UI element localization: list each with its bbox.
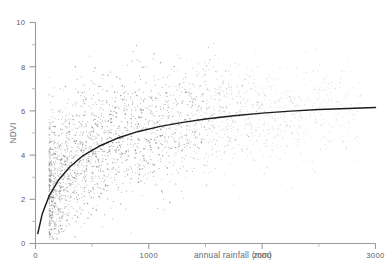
scatter-point bbox=[208, 107, 209, 108]
scatter-point bbox=[67, 191, 69, 193]
scatter-point bbox=[181, 91, 182, 92]
scatter-point bbox=[150, 112, 151, 113]
scatter-point bbox=[64, 162, 65, 163]
scatter-point bbox=[242, 151, 243, 152]
scatter-point bbox=[62, 129, 63, 130]
scatter-point bbox=[320, 124, 321, 125]
scatter-point bbox=[296, 112, 297, 113]
scatter-point bbox=[135, 118, 136, 119]
scatter-point bbox=[207, 100, 208, 101]
scatter-point bbox=[53, 220, 55, 222]
scatter-point bbox=[86, 168, 88, 170]
scatter-point bbox=[194, 135, 195, 136]
scatter-point bbox=[160, 128, 162, 130]
scatter-point bbox=[57, 219, 58, 220]
scatter-point bbox=[116, 184, 117, 185]
scatter-point bbox=[168, 100, 169, 101]
scatter-point bbox=[280, 97, 282, 99]
scatter-point bbox=[100, 169, 101, 170]
scatter-point bbox=[98, 170, 99, 171]
scatter-point bbox=[332, 105, 333, 106]
scatter-point bbox=[152, 129, 153, 130]
scatter-point bbox=[204, 74, 206, 76]
scatter-point bbox=[186, 91, 187, 92]
scatter-point bbox=[117, 147, 118, 148]
scatter-point bbox=[316, 119, 317, 120]
scatter-point bbox=[259, 108, 260, 109]
scatter-point bbox=[312, 161, 314, 163]
scatter-point bbox=[334, 118, 335, 119]
scatter-point bbox=[84, 191, 85, 192]
scatter-point bbox=[293, 103, 295, 105]
scatter-point bbox=[226, 107, 227, 108]
scatter-point bbox=[185, 177, 186, 178]
scatter-point bbox=[284, 132, 285, 133]
scatter-point bbox=[114, 107, 115, 108]
scatter-point bbox=[131, 109, 132, 110]
scatter-point bbox=[61, 195, 62, 196]
scatter-point bbox=[245, 126, 246, 127]
scatter-point bbox=[71, 155, 72, 156]
scatter-point bbox=[331, 126, 332, 127]
scatter-point bbox=[141, 110, 142, 111]
scatter-point bbox=[256, 67, 257, 68]
scatter-point bbox=[165, 84, 166, 85]
scatter-point bbox=[218, 102, 219, 103]
scatter-point bbox=[127, 121, 129, 123]
scatter-point bbox=[324, 137, 325, 138]
scatter-point bbox=[83, 115, 84, 116]
scatter-points-layer bbox=[48, 41, 361, 240]
scatter-point bbox=[141, 99, 142, 100]
scatter-point bbox=[51, 205, 53, 207]
scatter-point bbox=[101, 149, 103, 151]
scatter-point bbox=[153, 53, 155, 55]
scatter-point bbox=[169, 162, 170, 163]
scatter-point bbox=[98, 126, 99, 127]
scatter-point bbox=[231, 87, 232, 88]
scatter-point bbox=[100, 86, 101, 87]
scatter-point bbox=[55, 118, 56, 119]
scatter-point bbox=[63, 164, 64, 165]
scatter-point bbox=[161, 190, 163, 192]
scatter-point bbox=[153, 132, 154, 133]
scatter-point bbox=[167, 76, 168, 77]
scatter-point bbox=[189, 129, 190, 130]
scatter-point bbox=[68, 204, 69, 205]
scatter-point bbox=[72, 115, 74, 117]
scatter-point bbox=[94, 177, 95, 178]
scatter-point bbox=[98, 151, 99, 152]
scatter-point bbox=[62, 179, 63, 180]
scatter-point bbox=[180, 145, 181, 146]
scatter-point bbox=[177, 70, 178, 71]
scatter-point bbox=[69, 185, 70, 186]
scatter-point bbox=[56, 212, 57, 213]
scatter-point bbox=[62, 111, 63, 112]
scatter-point bbox=[95, 102, 96, 103]
scatter-point bbox=[143, 100, 144, 101]
scatter-point bbox=[247, 146, 248, 147]
scatter-point bbox=[56, 195, 58, 197]
scatter-point bbox=[91, 156, 92, 157]
scatter-point bbox=[175, 98, 176, 99]
scatter-point bbox=[341, 126, 342, 127]
scatter-point bbox=[340, 75, 341, 76]
scatter-point bbox=[348, 95, 349, 96]
scatter-point bbox=[185, 76, 187, 78]
scatter-point bbox=[139, 173, 141, 175]
scatter-point bbox=[51, 237, 52, 238]
scatter-point bbox=[131, 126, 132, 127]
scatter-point bbox=[101, 181, 102, 182]
scatter-point bbox=[219, 150, 220, 151]
scatter-point bbox=[171, 69, 172, 70]
scatter-point bbox=[255, 51, 256, 52]
scatter-point bbox=[51, 131, 52, 132]
scatter-point bbox=[95, 176, 96, 177]
scatter-point bbox=[265, 146, 266, 147]
scatter-point bbox=[240, 96, 241, 97]
scatter-point bbox=[315, 122, 317, 124]
scatter-point bbox=[99, 166, 100, 167]
scatter-point bbox=[139, 152, 140, 153]
scatter-point bbox=[263, 92, 264, 93]
scatter-point bbox=[201, 127, 202, 128]
scatter-point bbox=[79, 161, 80, 162]
